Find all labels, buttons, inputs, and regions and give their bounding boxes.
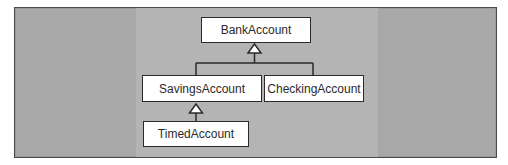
class-label: SavingsAccount (159, 82, 245, 96)
class-box-timed-account: TimedAccount (143, 121, 249, 147)
class-box-bank-account: BankAccount (201, 17, 311, 43)
class-label: TimedAccount (158, 127, 234, 141)
class-label: CheckingAccount (267, 82, 360, 96)
generalization-arrow-bank (196, 44, 313, 75)
class-box-checking-account: CheckingAccount (264, 75, 364, 102)
generalization-arrow-savings (190, 104, 203, 121)
class-label: BankAccount (221, 23, 292, 37)
class-box-savings-account: SavingsAccount (142, 75, 262, 102)
